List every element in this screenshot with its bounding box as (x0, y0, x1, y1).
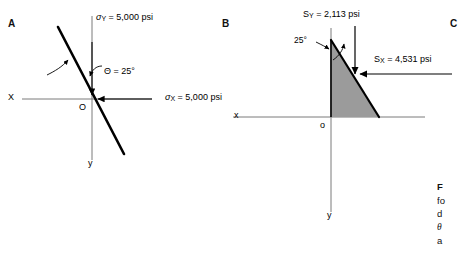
axis-x-label-a: X (8, 92, 14, 102)
figure-canvas: A (0, 0, 463, 261)
caption-line-4: θ (437, 221, 463, 235)
s-x-value: = 4,531 psi (385, 54, 432, 64)
angle-label-b: 25° (294, 36, 307, 45)
axis-y-label-a: y (88, 158, 93, 168)
caption-line-5: a (437, 234, 463, 248)
sigma-x-label-a: σX = 5,000 psi (165, 93, 222, 102)
axis-x-label-b: x (234, 110, 239, 120)
caption-line-1: F (437, 181, 443, 192)
panel-a-drawing (0, 0, 463, 261)
panel-letter-b: B (222, 18, 230, 29)
origin-label-b: o (320, 120, 325, 130)
sigma-y-label-a: σY = 5,000 psi (96, 13, 153, 22)
origin-label-a: O (79, 102, 86, 112)
theta-label-a: Θ = 25° (104, 67, 135, 76)
axis-y-label-b: y (327, 210, 332, 220)
panel-letter-c: C (450, 18, 458, 29)
s-y-value: = 2,113 psi (314, 9, 360, 19)
caption-line-2: fo (437, 194, 463, 208)
sigma-y-value: = 5,000 psi (106, 12, 153, 22)
s-x-label-b: SX = 4,531 psi (374, 55, 431, 64)
sigma-x-value: = 5,000 psi (175, 92, 222, 102)
figure-caption: F fo d θ a (437, 180, 463, 248)
s-y-label-b: SY = 2,113 psi (303, 10, 360, 19)
caption-line-3: d (437, 207, 463, 221)
